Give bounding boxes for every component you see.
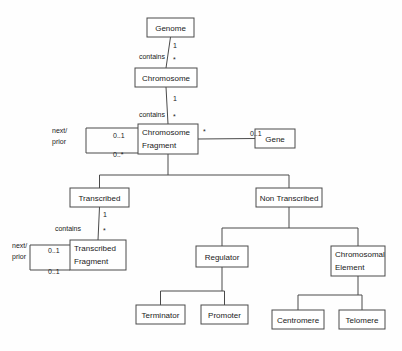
class-name-text: Transcribed — [74, 244, 116, 253]
assoc-chromosome-contains-fragment — [166, 87, 168, 124]
class-box-terminator[interactable]: Terminator — [136, 305, 185, 324]
class-name-text: Genome — [155, 24, 186, 33]
class-box-transcribed-fragment[interactable]: TranscribedFragment — [70, 240, 126, 270]
multiplicity-far-transcribed-fragment-next-prior: 0..1 — [48, 268, 60, 275]
multiplicity-source-genome-contains-chromosome: 1 — [173, 42, 177, 49]
multiplicity-target-fragment-gene: 0..1 — [250, 130, 262, 137]
class-name-text: Promoter — [208, 311, 241, 320]
role-label-fragment-next-prior: prior — [52, 138, 67, 146]
class-name-text: Non Transcribed — [260, 194, 319, 203]
diagram-canvas: GenomeChromosomeChromosomeFragmentGeneTr… — [0, 0, 402, 351]
assoc-label-transcribed-contains-fragment: contains — [55, 225, 82, 232]
class-boxes-layer: GenomeChromosomeChromosomeFragmentGeneTr… — [70, 18, 385, 329]
role-label-transcribed-fragment-next-prior: next/ — [12, 242, 27, 249]
role-label-fragment-next-prior: next/ — [52, 127, 67, 134]
multiplicity-near-transcribed-fragment-next-prior: 0..1 — [48, 247, 60, 254]
class-box-centromere[interactable]: Centromere — [272, 310, 324, 329]
uml-class-diagram: GenomeChromosomeChromosomeFragmentGeneTr… — [0, 0, 402, 351]
class-name-text: Chromosome — [142, 74, 191, 83]
class-name-text: Fragment — [74, 257, 109, 266]
assoc-label-chromosome-contains-fragment: contains — [139, 111, 166, 118]
multiplicity-source-transcribed-contains-fragment: 1 — [103, 211, 107, 218]
class-name-text: Chromosomal — [335, 250, 385, 259]
multiplicity-source-chromosome-contains-fragment: 1 — [173, 95, 177, 102]
class-name-text: Chromosome — [142, 128, 191, 137]
multiplicity-target-genome-contains-chromosome: * — [173, 56, 176, 63]
class-name-text: Transcribed — [79, 194, 121, 203]
class-name-text: Gene — [265, 135, 285, 144]
class-box-telomere[interactable]: Telomere — [339, 310, 385, 329]
class-name-text: Terminator — [142, 311, 180, 320]
assoc-genome-contains-chromosome — [166, 37, 171, 68]
class-box-chromosomal-element[interactable]: ChromosomalElement — [331, 246, 385, 276]
multiplicity-source-fragment-gene: * — [203, 128, 206, 135]
multiplicity-target-transcribed-contains-fragment: * — [103, 227, 106, 234]
multiplicity-far-fragment-next-prior: 0..* — [113, 151, 124, 158]
class-box-transcribed[interactable]: Transcribed — [70, 188, 129, 207]
class-name-text: Element — [335, 263, 365, 272]
class-box-chromosome-fragment[interactable]: ChromosomeFragment — [138, 124, 198, 154]
assoc-label-genome-contains-chromosome: contains — [139, 53, 166, 60]
class-name-text: Fragment — [142, 141, 177, 150]
role-label-transcribed-fragment-next-prior: prior — [12, 253, 27, 261]
class-box-chromosome[interactable]: Chromosome — [135, 68, 197, 87]
multiplicity-target-chromosome-contains-fragment: * — [173, 113, 176, 120]
assoc-fragment-gene — [198, 139, 255, 140]
class-box-promoter[interactable]: Promoter — [201, 305, 248, 324]
class-box-non-transcribed[interactable]: Non Transcribed — [256, 188, 322, 207]
multiplicity-near-fragment-next-prior: 0..1 — [113, 132, 125, 139]
class-name-text: Regulator — [205, 253, 240, 262]
assoc-transcribed-contains-fragment — [98, 207, 100, 240]
class-box-genome[interactable]: Genome — [147, 18, 194, 37]
class-name-text: Telomere — [346, 316, 379, 325]
class-box-regulator[interactable]: Regulator — [196, 246, 248, 267]
class-name-text: Centromere — [277, 316, 320, 325]
